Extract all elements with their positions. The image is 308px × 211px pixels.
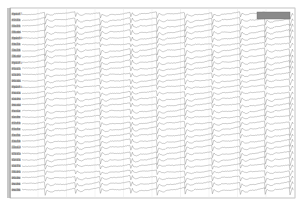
eeg-channel: C4-P4 bbox=[12, 96, 294, 104]
eeg-trace bbox=[22, 127, 293, 136]
eeg-channel: P4-T6 bbox=[12, 187, 294, 195]
eeg-channel: Cz-Pz bbox=[12, 115, 294, 121]
channel-label-text: Pz-P4 bbox=[12, 182, 20, 186]
channel-label-text: F3-Fz bbox=[12, 127, 20, 131]
eeg-channel: Fz-Cz bbox=[12, 109, 294, 117]
channel-label-text: Fp1-F3 bbox=[12, 61, 22, 65]
channel-label-text: C3-P3 bbox=[12, 73, 21, 77]
channel-label-text: C4-P4 bbox=[12, 97, 21, 101]
eeg-trace bbox=[22, 103, 293, 110]
eeg-channel: P4-O2 bbox=[12, 103, 294, 110]
eeg-channel: Fp1-F3 bbox=[12, 60, 294, 69]
eeg-channel: Fz-F4 bbox=[12, 133, 294, 140]
eeg-trace bbox=[22, 109, 293, 117]
channel-label-text: F3-C3 bbox=[12, 67, 21, 71]
eeg-trace bbox=[22, 12, 293, 19]
channel-label-text: F7-F3 bbox=[12, 121, 20, 125]
channel-label-text: T4-T6 bbox=[11, 48, 20, 52]
eeg-trace bbox=[22, 23, 293, 31]
eeg-trace bbox=[22, 85, 293, 91]
eeg-trace bbox=[22, 48, 293, 57]
eeg-trace bbox=[22, 187, 293, 195]
eeg-trace bbox=[22, 151, 293, 158]
channel-label-text: T3-C3 bbox=[11, 145, 21, 149]
eeg-trace bbox=[22, 157, 293, 166]
eeg-trace bbox=[22, 73, 293, 80]
eeg-channel: Fp2-F8 bbox=[12, 36, 294, 44]
channel-label-text: Fp1-F7 bbox=[12, 12, 22, 16]
plot-frame bbox=[10, 8, 295, 198]
eeg-trace bbox=[22, 54, 293, 63]
channel-label-text: Fp2-F4 bbox=[12, 85, 22, 89]
channel-label-text: C4-T4 bbox=[12, 164, 21, 168]
eeg-trace bbox=[22, 18, 293, 26]
channel-label-text: F7-T3 bbox=[12, 18, 20, 22]
eeg-channel: C3-Cz bbox=[12, 151, 294, 158]
eeg-channel: F4-F8 bbox=[12, 139, 294, 147]
eeg-channel: P3-Pz bbox=[12, 175, 294, 182]
eeg-channel: P3-O1 bbox=[12, 78, 294, 85]
eeg-trace bbox=[22, 175, 293, 182]
eeg-channel: C4-T4 bbox=[12, 163, 294, 170]
channel-label-text: P3-Pz bbox=[12, 176, 21, 180]
eeg-trace bbox=[22, 42, 293, 48]
eeg-trace bbox=[22, 91, 293, 98]
eeg-channel: F7-F3 bbox=[12, 121, 294, 129]
eeg-trace bbox=[22, 60, 293, 69]
eeg-channel: F8-T4 bbox=[12, 42, 294, 48]
eeg-trace bbox=[22, 96, 293, 104]
channel-label-text: T3-T5 bbox=[11, 24, 20, 28]
eeg-trace bbox=[22, 139, 293, 147]
eeg-channel: F3-C3 bbox=[12, 66, 294, 74]
eeg-trace bbox=[22, 182, 293, 189]
eeg-trace bbox=[22, 121, 293, 129]
channel-label-text: T5-P3 bbox=[11, 170, 21, 174]
channel-label-text: Cz-Pz bbox=[12, 115, 21, 119]
eeg-channel: Fp1-F7 bbox=[12, 12, 294, 19]
eeg-chart: Fp1-F7F7-T3T3-T5T5-O1Fp2-F8F8-T4T4-T6T6-… bbox=[0, 0, 308, 211]
eeg-trace bbox=[22, 163, 293, 170]
channel-label-text: Fz-Cz bbox=[12, 109, 20, 113]
eeg-trace bbox=[22, 78, 293, 85]
eeg-trace bbox=[22, 145, 293, 153]
eeg-trace bbox=[22, 115, 293, 121]
eeg-trace bbox=[22, 170, 293, 176]
eeg-trace bbox=[22, 66, 293, 74]
channel-label-text: T5-O1 bbox=[11, 30, 21, 34]
channel-label-text: F4-C4 bbox=[12, 91, 21, 95]
channel-label-text: P4-O2 bbox=[12, 103, 21, 107]
eeg-channel: F7-T3 bbox=[12, 18, 294, 26]
channel-label-text: P3-O1 bbox=[12, 79, 21, 83]
channel-index-column bbox=[7, 8, 11, 198]
channel-label-text: Cz-C4 bbox=[12, 158, 21, 162]
eeg-channel: Pz-P4 bbox=[12, 182, 294, 189]
eeg-channel: F3-Fz bbox=[12, 127, 294, 136]
channel-label-text: C3-Cz bbox=[12, 152, 21, 156]
eeg-channel: C3-P3 bbox=[12, 73, 294, 80]
channel-label-text: F8-T4 bbox=[12, 42, 20, 46]
channel-label-text: Fz-F4 bbox=[12, 133, 20, 137]
channel-label-text: F4-F8 bbox=[12, 139, 20, 143]
eeg-channel: F4-C4 bbox=[12, 91, 294, 98]
channel-label-text: T6-O2 bbox=[11, 54, 21, 58]
eeg-channel: Fp2-F4 bbox=[12, 85, 294, 91]
eeg-trace bbox=[22, 133, 293, 140]
scale-box bbox=[257, 12, 290, 19]
channel-label-text: Fp2-F8 bbox=[12, 36, 22, 40]
channel-label-text: P4-T6 bbox=[12, 188, 20, 192]
